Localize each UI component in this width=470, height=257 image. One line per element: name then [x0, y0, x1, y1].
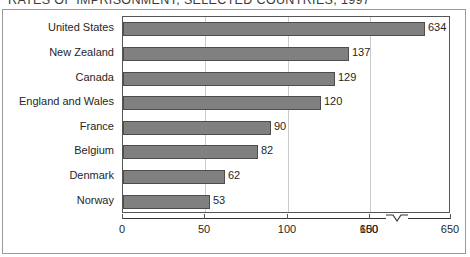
category-label: Denmark: [69, 169, 114, 181]
category-label: Belgium: [74, 144, 114, 156]
value-label: 137: [352, 46, 370, 58]
x-tick-label: 100: [278, 223, 296, 235]
bar-value-labels: 63413712912090826253: [122, 16, 470, 213]
value-label: 90: [274, 120, 286, 132]
value-label: 82: [261, 144, 273, 156]
value-label: 129: [338, 71, 356, 83]
value-label: 634: [428, 21, 446, 33]
x-axis-line-left-segment: [122, 218, 386, 219]
x-axis-line-right-segment: [408, 218, 450, 219]
category-label: United States: [48, 21, 114, 33]
x-tick-label: 650: [441, 223, 459, 235]
x-tick-label: 0: [119, 223, 125, 235]
axis-break-icon: [386, 212, 408, 224]
value-label: 53: [213, 194, 225, 206]
x-tick-label: 600: [360, 223, 378, 235]
chart-title: RATES OF IMPRISONMENT, SELECTED COUNTRIE…: [8, 0, 370, 7]
x-tick: [122, 214, 123, 219]
category-label: Norway: [77, 194, 114, 206]
category-label: New Zealand: [49, 46, 114, 58]
value-label: 120: [324, 95, 342, 107]
category-axis-labels: United StatesNew ZealandCanadaEngland an…: [0, 16, 118, 213]
category-label: France: [80, 120, 114, 132]
chart-figure: RATES OF IMPRISONMENT, SELECTED COUNTRIE…: [0, 0, 470, 257]
x-tick: [204, 214, 205, 219]
x-tick: [287, 214, 288, 219]
category-label: England and Wales: [19, 95, 114, 107]
value-label: 62: [228, 169, 240, 181]
category-label: Canada: [75, 71, 114, 83]
x-tick: [450, 214, 451, 219]
x-axis: 050100150600650: [122, 218, 470, 254]
x-tick-label: 50: [198, 223, 210, 235]
x-tick: [369, 214, 370, 219]
